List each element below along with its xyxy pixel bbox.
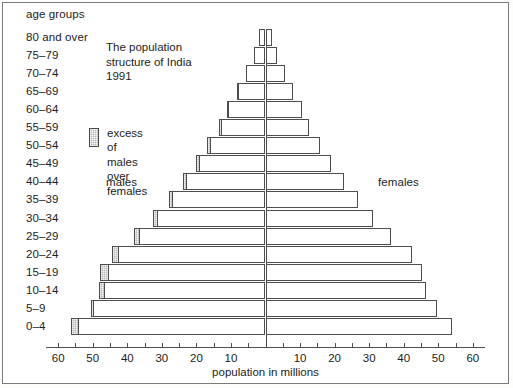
x-axis-tick-label-left: 30 [155, 352, 168, 364]
bar-excess-males [207, 137, 211, 154]
age-group-label: 25–29 [26, 230, 58, 242]
x-axis-tick [110, 343, 111, 347]
x-axis-tick [214, 343, 215, 347]
bar-males [99, 282, 266, 299]
x-axis-tick [473, 343, 474, 347]
x-axis-tick [421, 343, 422, 347]
age-group-label: 65–69 [26, 85, 58, 97]
bar-males [71, 318, 266, 335]
bar-males [169, 191, 266, 208]
bar-excess-males [219, 119, 222, 136]
bar-excess-males [169, 191, 173, 208]
bar-excess-males [183, 173, 187, 190]
x-axis-tick [438, 343, 439, 347]
age-group-label: 70–74 [26, 67, 58, 79]
bar-females [266, 47, 278, 64]
age-group-label: 15–19 [26, 266, 58, 278]
age-group-label: 45–49 [26, 157, 58, 169]
age-group-label: 0–4 [26, 320, 46, 332]
x-axis-tick-label-left: 50 [86, 352, 99, 364]
age-group-label: 20–24 [26, 248, 58, 260]
x-axis-tick [75, 343, 76, 347]
x-axis-tick [145, 343, 146, 347]
bar-excess-males [100, 264, 109, 281]
bar-excess-males [91, 300, 94, 317]
bar-excess-males [112, 246, 119, 263]
x-axis-tick [386, 343, 387, 347]
bar-males [153, 210, 265, 227]
x-axis-tick [231, 343, 232, 347]
bar-excess-males [227, 101, 229, 118]
age-group-label: 35–39 [26, 193, 58, 205]
plot-area [0, 0, 513, 388]
bar-females [266, 264, 422, 281]
x-axis-title: population in millions [212, 366, 319, 378]
x-axis-tick-label-right: 10 [294, 352, 307, 364]
x-axis-tick [317, 343, 318, 347]
age-group-label: 60–64 [26, 103, 58, 115]
bar-males [134, 228, 265, 245]
bar-females [266, 210, 373, 227]
bar-females [266, 282, 427, 299]
x-axis-tick [179, 343, 180, 347]
bar-females [266, 246, 413, 263]
bar-males [237, 83, 266, 100]
x-axis-tick [127, 343, 128, 347]
x-axis-tick [300, 343, 301, 347]
bar-females [266, 173, 345, 190]
age-group-label: 80 and over [26, 31, 88, 43]
x-axis-tick [283, 343, 284, 347]
bar-females [266, 65, 285, 82]
x-axis-line [46, 347, 485, 348]
x-axis-tick-label-right: 20 [328, 352, 341, 364]
bar-excess-males [237, 83, 239, 100]
bar-males [112, 246, 266, 263]
x-axis-tick [335, 343, 336, 347]
bar-excess-males [134, 228, 140, 245]
x-axis-tick [196, 343, 197, 347]
x-axis-tick [456, 343, 457, 347]
bar-males [246, 65, 265, 82]
x-axis-tick-label-left: 60 [52, 352, 65, 364]
bar-females [266, 101, 303, 118]
age-group-label: 40–44 [26, 175, 58, 187]
bar-excess-males [153, 210, 158, 227]
age-group-label: 75–79 [26, 49, 58, 61]
bar-females [266, 300, 437, 317]
x-axis-tick [369, 343, 370, 347]
x-axis-tick-label-left: 20 [190, 352, 203, 364]
x-axis-tick [162, 343, 163, 347]
bar-females [266, 155, 331, 172]
x-axis-tick-label-right: 50 [432, 352, 445, 364]
bar-males [259, 29, 266, 46]
bar-females [266, 191, 359, 208]
bar-males [254, 47, 266, 64]
bar-excess-males [99, 282, 105, 299]
x-axis-tick [248, 343, 249, 347]
age-group-label: 50–54 [26, 139, 58, 151]
population-pyramid-figure: age groups The population structure of I… [0, 0, 513, 388]
bar-excess-males [71, 318, 79, 335]
x-axis-tick [352, 343, 353, 347]
bar-females [266, 119, 310, 136]
x-axis-tick-label-right: 40 [397, 352, 410, 364]
bar-females [266, 29, 273, 46]
x-axis-tick [58, 343, 59, 347]
bar-females [266, 228, 392, 245]
age-group-label: 55–59 [26, 121, 58, 133]
x-axis-tick-label-right: 60 [466, 352, 479, 364]
bar-males [219, 119, 266, 136]
bar-females [266, 83, 294, 100]
x-axis-tick [404, 343, 405, 347]
bar-males [196, 155, 266, 172]
x-axis-tick-label-right: 30 [363, 352, 376, 364]
x-axis-tick-label-left: 40 [121, 352, 134, 364]
age-group-label: 5–9 [26, 302, 46, 314]
age-group-label: 10–14 [26, 284, 58, 296]
bar-males [183, 173, 266, 190]
x-axis-tick [93, 343, 94, 347]
x-axis-tick [266, 343, 267, 347]
bar-males [91, 300, 266, 317]
bar-females [266, 137, 321, 154]
bar-excess-males [196, 155, 200, 172]
